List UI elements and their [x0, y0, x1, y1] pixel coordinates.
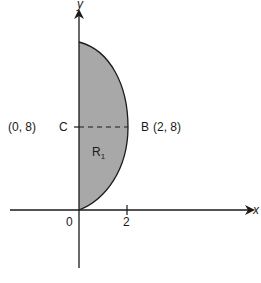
diagram-canvas: y x 0 2 (0, 8) C B (2, 8) R1: [0, 0, 261, 283]
point-c-coords: (0, 8): [8, 120, 36, 134]
y-axis-label: y: [76, 0, 84, 11]
point-b-coords: (2, 8): [153, 120, 181, 134]
region-label-main: R: [92, 145, 101, 159]
region-r1: [79, 42, 128, 210]
point-b-label: B: [141, 120, 149, 134]
x-tick-label: 2: [123, 215, 130, 229]
origin-label: 0: [66, 215, 73, 229]
point-c-label: C: [59, 120, 68, 134]
x-axis-label: x: [252, 203, 260, 217]
region-label-subscript: 1: [101, 152, 106, 161]
